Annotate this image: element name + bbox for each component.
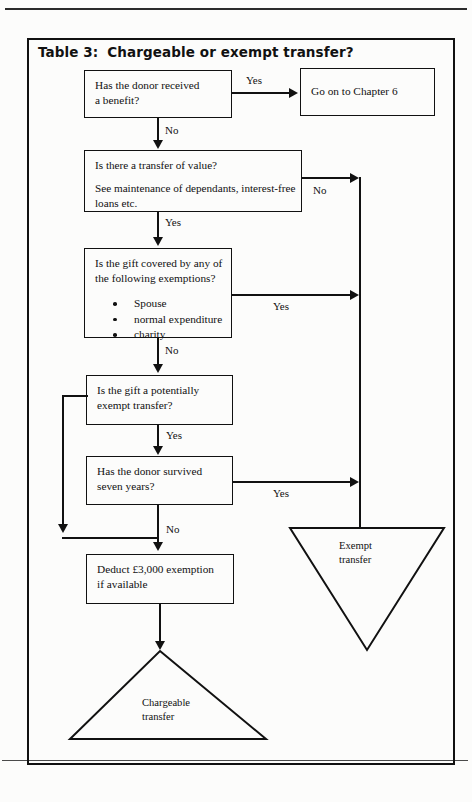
edge-label-q2-no: No bbox=[313, 184, 326, 196]
node-q4-line2: exempt transfer? bbox=[97, 398, 232, 413]
edge-q1-no-arrow bbox=[153, 140, 163, 149]
edge-q1-no-line bbox=[157, 118, 159, 142]
table-title-text: Chargeable or exempt transfer? bbox=[107, 44, 353, 60]
node-q2-line2: See maintenance of dependants, interest-… bbox=[95, 181, 301, 196]
node-q1[interactable]: Has the donor received a benefit? bbox=[84, 70, 232, 118]
edge-q5-no-line bbox=[157, 505, 159, 543]
terminal-chargeable-label: Chargeable transfer bbox=[142, 696, 190, 723]
table-number: Table 3: bbox=[38, 44, 98, 60]
terminal-exempt-line2: transfer bbox=[339, 554, 371, 565]
edge-q3-yes-arrow bbox=[350, 290, 359, 300]
edge-q5-yes-line bbox=[233, 481, 350, 483]
edge-q6-line bbox=[159, 604, 161, 642]
edge-q4-loop-bottom bbox=[62, 537, 159, 539]
node-q2[interactable]: Is there a transfer of value? See mainte… bbox=[84, 150, 302, 212]
node-q6-line2: if available bbox=[97, 577, 233, 592]
node-chapter6-line1: Go on to Chapter 6 bbox=[311, 84, 434, 99]
edge-label-q1-no: No bbox=[165, 124, 178, 136]
node-q5-line2: seven years? bbox=[97, 479, 232, 494]
edge-q4-loop-arrow bbox=[58, 524, 68, 533]
node-q3-line1: Is the gift covered by any of bbox=[95, 256, 231, 271]
edge-q5-yes-arrow bbox=[350, 477, 359, 487]
edge-q1-yes-arrow bbox=[289, 88, 298, 98]
node-q1-line1: Has the donor received bbox=[95, 78, 231, 93]
header-rule bbox=[5, 8, 467, 10]
page-canvas: Table 3:Chargeable or exempt transfer? H… bbox=[0, 0, 472, 802]
terminal-chargeable-line2: transfer bbox=[142, 711, 174, 722]
list-item: normal expenditure bbox=[107, 312, 231, 328]
terminal-exempt-label: Exempt transfer bbox=[339, 539, 372, 566]
node-q1-line2: a benefit? bbox=[95, 93, 231, 108]
node-q2-line3: loans etc. bbox=[95, 196, 301, 211]
node-q3-line2: the following exemptions? bbox=[95, 271, 231, 286]
edge-q2-yes-line bbox=[157, 212, 159, 238]
node-q2-line1: Is there a transfer of value? bbox=[95, 158, 301, 173]
edge-label-q3-yes: Yes bbox=[273, 300, 289, 312]
node-chapter6[interactable]: Go on to Chapter 6 bbox=[300, 68, 435, 116]
terminal-chargeable-triangle bbox=[68, 649, 268, 741]
node-q3[interactable]: Is the gift covered by any of the follow… bbox=[84, 248, 232, 338]
node-q5[interactable]: Has the donor survived seven years? bbox=[86, 456, 233, 505]
list-item: Spouse bbox=[107, 296, 231, 312]
running-header bbox=[8, 0, 464, 5]
list-item: charity bbox=[107, 327, 231, 343]
edge-label-q2-yes: Yes bbox=[165, 216, 181, 228]
edge-label-q4-yes: Yes bbox=[166, 429, 182, 441]
edge-q3-no-arrow bbox=[153, 364, 163, 373]
edge-label-q5-yes: Yes bbox=[273, 487, 289, 499]
edge-label-q5-no: No bbox=[166, 523, 179, 535]
node-q4-line1: Is the gift a potentially bbox=[97, 383, 232, 398]
edge-q4-loop-vertical bbox=[62, 395, 64, 527]
edge-q3-no-line bbox=[157, 338, 159, 366]
node-q5-line1: Has the donor survived bbox=[97, 464, 232, 479]
node-q4[interactable]: Is the gift a potentially exempt transfe… bbox=[86, 375, 233, 425]
node-q6-line1: Deduct £3,000 exemption bbox=[97, 562, 233, 577]
edge-q3-yes-line bbox=[232, 294, 350, 296]
terminal-chargeable-line1: Chargeable bbox=[142, 697, 190, 708]
edge-q2-no-arrow bbox=[350, 173, 359, 183]
edge-q5-no-arrow bbox=[153, 542, 163, 551]
edge-q2-no-line bbox=[302, 177, 350, 179]
edge-q1-yes-line bbox=[232, 92, 290, 94]
edge-label-q1-yes: Yes bbox=[246, 74, 262, 86]
edge-q4-yes-arrow bbox=[153, 446, 163, 455]
terminal-exempt-line1: Exempt bbox=[339, 540, 372, 551]
edge-q4-loop-top bbox=[62, 395, 88, 397]
node-q6[interactable]: Deduct £3,000 exemption if available bbox=[86, 554, 234, 604]
exempt-rail-line bbox=[359, 177, 361, 529]
node-q3-bullet-list: Spouse normal expenditure charity bbox=[95, 296, 231, 343]
page-title: Table 3:Chargeable or exempt transfer? bbox=[38, 44, 354, 60]
edge-q2-yes-arrow bbox=[153, 237, 163, 246]
edge-q4-yes-line bbox=[157, 425, 159, 447]
edge-label-q3-no: No bbox=[165, 344, 178, 356]
